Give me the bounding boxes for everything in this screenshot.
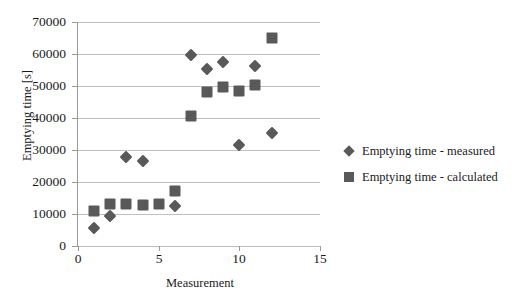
data-point [105, 199, 116, 210]
diamond-marker-icon [342, 145, 355, 158]
data-point [89, 205, 100, 216]
data-point [266, 33, 277, 44]
data-point [88, 222, 101, 235]
data-point [120, 151, 133, 164]
y-axis-title: Emptying time [s] [20, 41, 35, 191]
x-axis-tick-label: 15 [305, 252, 335, 266]
chart-legend: Emptying time - measuredEmptying time - … [342, 138, 512, 190]
data-point [137, 200, 148, 211]
data-point [185, 49, 198, 62]
data-point [217, 56, 230, 69]
data-point [250, 80, 261, 91]
x-axis-tick-label: 5 [144, 252, 174, 266]
data-point [265, 126, 278, 139]
legend-item: Emptying time - measured [342, 138, 512, 164]
data-point [218, 81, 229, 92]
data-point [153, 198, 164, 209]
y-axis-tick-label: 70000 [0, 15, 66, 29]
y-axis-tick-label: 0 [0, 239, 66, 253]
y-axis-tick-label: 10000 [0, 207, 66, 221]
data-point [234, 86, 245, 97]
plot-area [78, 22, 320, 246]
x-axis-tick-label: 10 [224, 252, 254, 266]
data-point [249, 59, 262, 72]
x-axis-title: Measurement [120, 276, 280, 291]
x-axis-tick-label: 0 [63, 252, 93, 266]
square-marker-icon [342, 171, 355, 184]
data-point [233, 139, 246, 152]
data-point [185, 110, 196, 121]
data-point [202, 86, 213, 97]
data-point [104, 209, 117, 222]
data-point [121, 198, 132, 209]
data-point [201, 63, 214, 76]
data-point [168, 200, 181, 213]
gridline [78, 246, 320, 247]
legend-item: Emptying time - calculated [342, 164, 512, 190]
data-point [169, 186, 180, 197]
data-point [136, 154, 149, 167]
scatter-chart: 010000200003000040000500006000070000 051… [0, 0, 513, 304]
legend-item-label: Emptying time - calculated [362, 170, 498, 184]
legend-item-label: Emptying time - measured [362, 144, 495, 158]
